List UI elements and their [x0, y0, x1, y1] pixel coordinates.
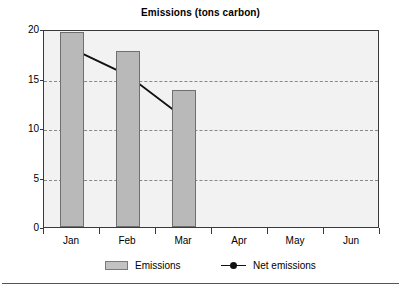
x-tick-mark	[43, 228, 44, 234]
x-tick-label-apr: Apr	[211, 235, 267, 246]
gridline	[44, 81, 378, 82]
net-emissions-line-svg	[44, 31, 378, 227]
x-tick-mark	[99, 228, 100, 234]
chart-title: Emissions (tons carbon)	[0, 7, 401, 18]
x-tick-label-feb: Feb	[99, 235, 155, 246]
legend-label-emissions: Emissions	[135, 260, 181, 271]
legend-dot-marker-icon	[230, 262, 237, 269]
y-tick-label: 5	[9, 174, 39, 184]
bar-feb	[116, 51, 140, 227]
y-axis: 05101520	[5, 30, 39, 228]
x-tick-label-jun: Jun	[323, 235, 379, 246]
bar-jan	[60, 32, 84, 227]
line-marker-swatch-icon	[221, 261, 246, 270]
y-tick-label: 10	[9, 124, 39, 134]
bar-mar	[172, 90, 196, 227]
y-tick-label: 15	[9, 75, 39, 85]
y-tick-label: 0	[9, 223, 39, 233]
x-tick-mark	[323, 228, 324, 234]
x-tick-label-mar: Mar	[155, 235, 211, 246]
chart-legend: Emissions Net emissions	[0, 258, 401, 276]
bar-swatch-icon	[105, 261, 128, 270]
x-tick-label-jan: Jan	[43, 235, 99, 246]
x-tick-mark	[379, 228, 380, 234]
y-tick-label: 20	[9, 25, 39, 35]
gridline	[44, 180, 378, 181]
legend-entry-net-emissions: Net emissions	[221, 258, 316, 272]
gridline	[44, 130, 378, 131]
plot-area	[43, 30, 379, 228]
x-tick-mark	[211, 228, 212, 234]
x-axis: JanFebMarAprMayJun	[43, 228, 379, 250]
x-tick-label-may: May	[267, 235, 323, 246]
legend-label-net-emissions: Net emissions	[253, 260, 316, 271]
figure-bottom-rule	[2, 283, 399, 284]
legend-entry-emissions: Emissions	[105, 258, 181, 272]
chart-figure: Emissions (tons carbon) 05101520 JanFebM…	[0, 0, 401, 289]
x-tick-mark	[155, 228, 156, 234]
x-tick-mark	[267, 228, 268, 234]
